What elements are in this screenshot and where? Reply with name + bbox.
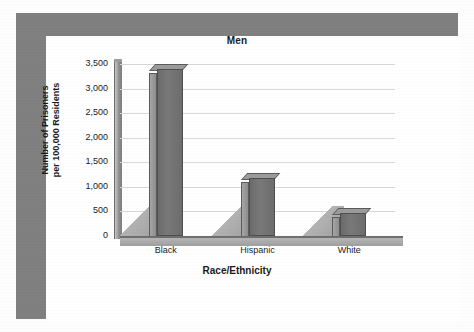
x-axis-tick-label: Black: [120, 245, 212, 255]
bar-chart: Men Number of Prisoners per 100,000 Resi…: [30, 23, 444, 309]
bar-side-face: [332, 217, 340, 236]
y-axis-tick-label: 1,000: [62, 181, 108, 191]
y-axis-title-line-2: per 100,000 Residents: [51, 45, 62, 215]
x-axis-title: Race/Ethnicity: [30, 265, 444, 276]
bar-front-face: [340, 213, 366, 236]
y-axis-tick-label: 3,500: [62, 58, 108, 68]
y-axis-tick-labels: 05001,0001,5002,0002,5003,0003,500: [62, 64, 108, 236]
chart-baseline: [120, 236, 403, 238]
y-axis-tick-label: 1,500: [62, 156, 108, 166]
scanned-page: Men Number of Prisoners per 100,000 Resi…: [0, 0, 474, 332]
y-axis-tick-label: 3,000: [62, 83, 108, 93]
bar-white[interactable]: [340, 213, 366, 236]
bar-front-face: [249, 178, 275, 236]
y-axis-wall-cap: [114, 59, 122, 62]
bar-hispanic[interactable]: [249, 178, 275, 236]
bar-side-face: [149, 73, 157, 236]
bar-side-face: [241, 182, 249, 236]
bar-black[interactable]: [157, 69, 183, 236]
y-axis-tick-label: 500: [62, 205, 108, 215]
y-axis-tick-label: 0: [62, 230, 108, 240]
y-axis-title: Number of Prisoners per 100,000 Resident…: [40, 45, 62, 215]
x-axis-tick-label: Hispanic: [212, 245, 304, 255]
y-axis-title-line-1: Number of Prisoners: [40, 45, 51, 215]
y-axis-tick-label: 2,000: [62, 132, 108, 142]
bar-front-face: [157, 69, 183, 236]
chart-title: Men: [30, 35, 444, 46]
y-axis-tick-label: 2,500: [62, 107, 108, 117]
x-axis-tick-label: White: [303, 245, 395, 255]
